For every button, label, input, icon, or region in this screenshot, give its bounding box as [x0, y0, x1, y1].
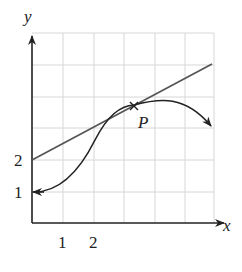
y-axis-label: y	[22, 7, 32, 26]
grid	[32, 33, 214, 223]
point-label: P	[137, 113, 148, 132]
y-tick-1: 1	[14, 183, 23, 202]
x-axis-label: x	[222, 216, 231, 235]
y-tick-2: 2	[14, 151, 23, 170]
x-tick-2: 2	[89, 233, 98, 252]
curve	[34, 100, 211, 192]
x-tick-1: 1	[58, 233, 67, 252]
axes	[32, 36, 224, 223]
figure: P y x 2 1 1 2	[0, 0, 242, 272]
